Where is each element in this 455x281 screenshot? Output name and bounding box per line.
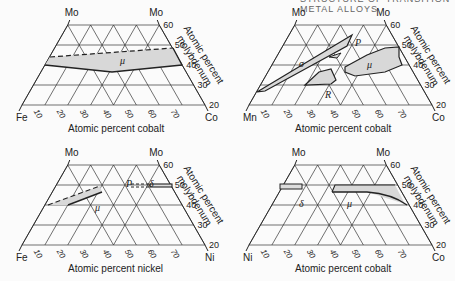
corner-label-mo-right: Mo — [149, 148, 163, 158]
phase-label: μ — [120, 55, 125, 66]
corner-label-right: Co — [205, 113, 218, 123]
y-tick: 60 — [163, 21, 173, 30]
y-tick: 20 — [436, 101, 446, 110]
phase-label: R — [325, 89, 331, 100]
y-tick: 20 — [209, 101, 219, 110]
corner-label-mo-left: Mo — [292, 148, 306, 158]
phase-label: P — [355, 37, 361, 48]
ternary-diagram-mn-mo-co: MoMoMnCo102030405060706050403020Atomic p… — [227, 0, 455, 140]
x-axis-label: Atomic percent nickel — [68, 263, 163, 274]
corner-label-left: Fe — [16, 113, 28, 123]
ternary-diagram-fe-mo-ni: MoMoFeNi102030405060706050403020Atomic p… — [0, 140, 228, 280]
ternary-diagram-fe-mo-co: MoMoFeCo102030405060706050403020Atomic p… — [0, 0, 228, 140]
corner-label-right: Ni — [205, 253, 214, 263]
x-axis-label: Atomic percent cobalt — [295, 263, 391, 274]
corner-label-mo-right: Mo — [376, 8, 390, 18]
x-axis-label: Atomic percent cobalt — [295, 123, 391, 134]
x-axis-label: Atomic percent cobalt — [68, 123, 164, 134]
corner-label-left: Mn — [243, 113, 257, 123]
corner-label-mo-left: Mo — [65, 8, 79, 18]
y-tick: 20 — [436, 241, 446, 250]
corner-label-mo-right: Mo — [149, 8, 163, 18]
phase-label: σ — [299, 58, 304, 69]
phase-label: μ — [347, 198, 352, 209]
y-tick: 60 — [163, 161, 173, 170]
corner-label-right: Co — [432, 253, 445, 263]
phase-label: δ — [299, 198, 304, 209]
corner-label-mo-right: Mo — [376, 148, 390, 158]
phase-label: μ — [95, 202, 100, 213]
y-tick: 20 — [209, 241, 219, 250]
corner-label-mo-left: Mo — [292, 8, 306, 18]
corner-label-right: Co — [432, 113, 445, 123]
corner-label-mo-left: Mo — [65, 148, 79, 158]
corner-label-left: Ni — [243, 253, 252, 263]
phase-label: μ — [367, 59, 372, 70]
ternary-diagram-ni-mo-co: MoMoNiCo102030405060706050403020Atomic p… — [227, 140, 455, 280]
corner-label-left: Fe — [16, 253, 28, 263]
phase-label: P — [126, 178, 132, 189]
y-tick: 60 — [390, 161, 400, 170]
y-tick: 60 — [390, 21, 400, 30]
phase-label: δ — [149, 178, 154, 189]
